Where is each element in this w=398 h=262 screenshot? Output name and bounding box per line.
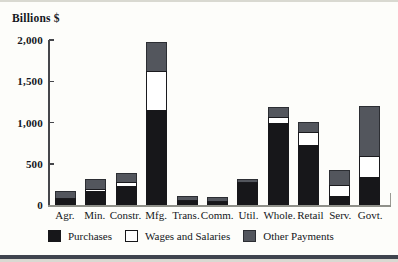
bar-trans xyxy=(172,40,202,205)
legend: PurchasesWages and SalariesOther Payment… xyxy=(48,230,334,242)
bar-segment-other xyxy=(359,106,380,156)
y-tick-label: 0 xyxy=(37,199,43,211)
bar-constr xyxy=(111,40,141,205)
category-label: Trans. xyxy=(171,209,201,221)
bar-segment-wages xyxy=(359,156,380,177)
bar-mfg xyxy=(141,40,171,205)
bar-min xyxy=(80,40,110,205)
top-rule xyxy=(0,0,398,2)
bar-segment-other xyxy=(298,122,319,133)
y-tick-label: 1,000 xyxy=(17,117,43,129)
bottom-rule xyxy=(0,255,398,259)
x-axis-category-labels: Agr.Min.Constr.Mfg.Trans.Comm.Util.Whole… xyxy=(50,209,385,221)
bar-segment-purchases xyxy=(116,186,137,205)
category-label: Util. xyxy=(234,209,264,221)
y-tick-label: 1,500 xyxy=(17,75,43,87)
category-label: Comm. xyxy=(201,209,234,221)
bar-segment-purchases xyxy=(177,201,198,205)
bar-segment-purchases xyxy=(298,145,319,205)
legend-swatch-icon xyxy=(243,230,256,242)
bar-segment-other xyxy=(146,42,167,71)
bar-segment-purchases xyxy=(85,191,106,205)
bar-agr xyxy=(50,40,80,205)
y-axis-tick-labels: 2,0001,5001,0005000 xyxy=(0,40,43,207)
category-label: Agr. xyxy=(50,209,80,221)
legend-label: Purchases xyxy=(68,230,112,242)
legend-label: Other Payments xyxy=(263,230,334,242)
bar-retail xyxy=(294,40,324,205)
bar-segment-purchases xyxy=(237,183,258,205)
bar-segment-other xyxy=(85,179,106,189)
legend-item-purchases: Purchases xyxy=(48,230,112,242)
bar-serv xyxy=(324,40,354,205)
legend-item-wages: Wages and Salaries xyxy=(125,230,230,242)
bar-segment-wages xyxy=(146,71,167,110)
bar-comm xyxy=(202,40,232,205)
bar-segment-wages xyxy=(298,132,319,144)
category-label: Constr. xyxy=(110,209,141,221)
legend-item-other: Other Payments xyxy=(243,230,334,242)
bottom-band xyxy=(0,255,398,262)
y-axis-title: Billions $ xyxy=(12,12,60,24)
bar-segment-purchases xyxy=(329,196,350,205)
bar-segment-wages xyxy=(329,185,350,196)
category-label: Serv. xyxy=(325,209,355,221)
chart-page: Billions $ 2,0001,5001,0005000 Agr.Min.C… xyxy=(0,0,398,262)
bar-segment-other xyxy=(329,170,350,185)
bar-segment-other xyxy=(116,173,137,181)
bar-segment-purchases xyxy=(207,202,228,205)
bars-row xyxy=(50,40,385,205)
bar-segment-purchases xyxy=(268,123,289,206)
legend-label: Wages and Salaries xyxy=(145,230,230,242)
bar-segment-purchases xyxy=(146,110,167,205)
x-axis-baseline xyxy=(48,205,391,207)
category-label: Whole. xyxy=(263,209,295,221)
x-axis-end-tick xyxy=(390,193,392,205)
bar-whole xyxy=(263,40,293,205)
category-label: Min. xyxy=(80,209,110,221)
category-label: Retail xyxy=(295,209,325,221)
y-tick-label: 500 xyxy=(26,158,43,170)
bar-segment-other xyxy=(55,191,76,198)
category-label: Govt. xyxy=(355,209,385,221)
bar-segment-purchases xyxy=(55,199,76,205)
legend-swatch-icon xyxy=(48,230,61,242)
bar-util xyxy=(233,40,263,205)
bar-segment-other xyxy=(268,107,289,117)
y-tick-label: 2,000 xyxy=(17,34,43,46)
bar-segment-purchases xyxy=(359,177,380,205)
bar-govt xyxy=(355,40,385,205)
category-label: Mfg. xyxy=(141,209,171,221)
legend-swatch-icon xyxy=(125,230,138,242)
